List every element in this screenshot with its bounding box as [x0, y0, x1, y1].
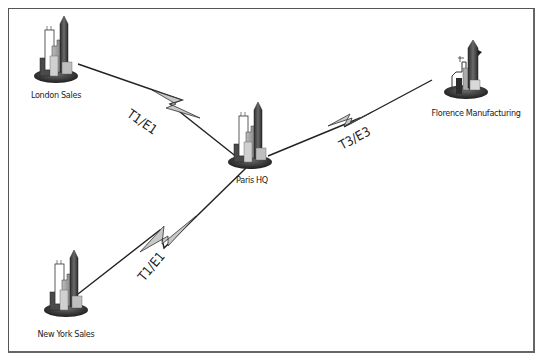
- node-london-sales[interactable]: London Sales: [31, 16, 81, 100]
- city-buildings-icon: [228, 102, 272, 169]
- link-london-paris[interactable]: [78, 64, 238, 158]
- node-label-newyork: New York Sales: [38, 329, 95, 339]
- node-label-florence: Florence Manufacturing: [431, 108, 520, 118]
- network-diagram: T1/E1 T3/E3 T1/E1 London Sales Paris HQ …: [0, 0, 542, 361]
- link-label-london-paris: T1/E1: [123, 106, 160, 138]
- factory-icon: [444, 40, 488, 99]
- link-label-newyork-paris: T1/E1: [134, 249, 168, 285]
- city-buildings-icon: [44, 250, 88, 317]
- node-florence-manufacturing[interactable]: Florence Manufacturing: [431, 40, 520, 118]
- node-label-london: London Sales: [31, 90, 81, 100]
- node-paris-hq[interactable]: Paris HQ: [228, 102, 272, 185]
- node-new-york-sales[interactable]: New York Sales: [38, 250, 95, 339]
- link-newyork-paris[interactable]: [78, 168, 246, 294]
- node-label-paris: Paris HQ: [236, 175, 268, 185]
- link-label-paris-florence: T3/E3: [335, 124, 372, 153]
- city-buildings-icon: [34, 16, 78, 83]
